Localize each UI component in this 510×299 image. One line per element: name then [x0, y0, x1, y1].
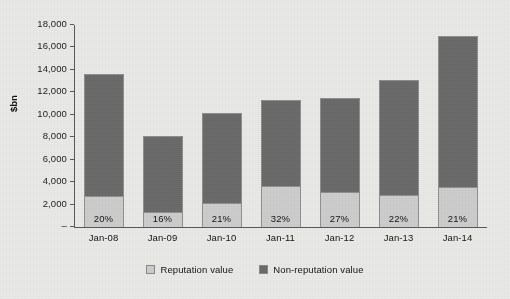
y-axis-title: $bn — [8, 95, 19, 112]
bar-segment-non-reputation-value[interactable] — [84, 74, 124, 196]
bar-segment-reputation-value[interactable]: 27% — [320, 192, 360, 227]
bar-segment-non-reputation-value[interactable] — [202, 113, 242, 203]
bar-stack[interactable]: 20% — [84, 74, 124, 227]
y-tick-label: 16,000 — [37, 40, 67, 51]
y-tick-label: 6,000 — [43, 153, 67, 164]
bar-stack[interactable]: 32% — [261, 100, 301, 227]
legend-item-label: Non-reputation value — [273, 264, 363, 275]
bar-segment-reputation-value[interactable]: 32% — [261, 186, 301, 227]
legend-item-label: Reputation value — [160, 264, 233, 275]
bar-segment-reputation-value[interactable]: 21% — [438, 187, 478, 227]
bar-segment-non-reputation-value[interactable] — [320, 98, 360, 192]
plot-area: –2,0004,0006,0008,00010,00012,00014,0001… — [74, 25, 487, 227]
bar-stack[interactable]: 22% — [379, 80, 419, 227]
y-tick-label: 10,000 — [37, 108, 67, 119]
y-tick-label: 12,000 — [37, 85, 67, 96]
y-tick-mark — [70, 24, 74, 25]
y-tick-label: 2,000 — [43, 198, 67, 209]
bar-stack[interactable]: 27% — [320, 98, 360, 227]
y-tick-mark — [70, 226, 74, 227]
y-tick-mark — [70, 46, 74, 47]
bar-data-label: 16% — [144, 213, 182, 224]
y-tick-label: – — [62, 220, 67, 231]
bar-stack[interactable]: 16% — [143, 136, 183, 227]
bar-segment-non-reputation-value[interactable] — [438, 36, 478, 187]
legend-swatch-icon — [259, 265, 268, 274]
bar-data-label: 32% — [262, 213, 300, 224]
bar-segment-reputation-value[interactable]: 21% — [202, 203, 242, 227]
chart-legend: Reputation value Non-reputation value — [0, 264, 510, 275]
bar-data-label: 27% — [321, 213, 359, 224]
bar-segment-reputation-value[interactable]: 16% — [143, 212, 183, 227]
x-axis-label: Jan-14 — [418, 232, 498, 243]
bar-segment-reputation-value[interactable]: 22% — [379, 195, 419, 227]
legend-swatch-icon — [146, 265, 155, 274]
bar-segment-non-reputation-value[interactable] — [261, 100, 301, 187]
chart-figure: $bn –2,0004,0006,0008,00010,00012,00014,… — [0, 0, 510, 299]
y-tick-mark — [70, 181, 74, 182]
y-tick-mark — [70, 69, 74, 70]
y-tick-mark — [70, 136, 74, 137]
bar-segment-non-reputation-value[interactable] — [379, 80, 419, 195]
legend-item-reputation-value[interactable]: Reputation value — [146, 264, 233, 275]
y-tick-mark — [70, 114, 74, 115]
y-tick-mark — [70, 204, 74, 205]
y-tick-label: 14,000 — [37, 63, 67, 74]
bar-segment-reputation-value[interactable]: 20% — [84, 196, 124, 227]
x-axis-line — [74, 227, 487, 228]
bar-stack[interactable]: 21% — [202, 113, 242, 227]
y-tick-mark — [70, 91, 74, 92]
y-tick-mark — [70, 159, 74, 160]
y-tick-label: 8,000 — [43, 130, 67, 141]
bar-stack[interactable]: 21% — [438, 36, 478, 227]
y-tick-label: 4,000 — [43, 175, 67, 186]
bar-segment-non-reputation-value[interactable] — [143, 136, 183, 212]
bar-data-label: 22% — [380, 213, 418, 224]
bar-data-label: 20% — [85, 213, 123, 224]
bar-data-label: 21% — [203, 213, 241, 224]
y-tick-label: 18,000 — [37, 18, 67, 29]
bar-data-label: 21% — [439, 213, 477, 224]
legend-item-non-reputation-value[interactable]: Non-reputation value — [259, 264, 363, 275]
